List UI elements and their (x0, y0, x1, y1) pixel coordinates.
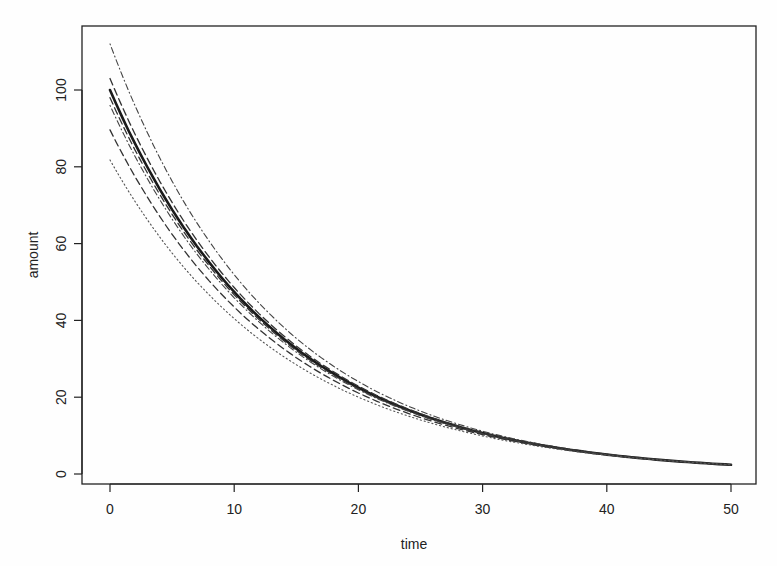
y-tick-label: 60 (53, 236, 69, 252)
x-tick-label: 50 (723, 501, 739, 517)
y-tick-label: 0 (53, 470, 69, 478)
line-chart: 01020304050 020406080100 time amount (0, 0, 777, 566)
y-axis: 020406080100 (53, 78, 82, 478)
x-tick-label: 0 (106, 501, 114, 517)
curve-lower-outer (110, 160, 731, 465)
x-tick-label: 40 (599, 501, 615, 517)
y-tick-label: 20 (53, 389, 69, 405)
x-tick-label: 20 (351, 501, 367, 517)
curves (110, 44, 731, 465)
y-tick-label: 40 (53, 312, 69, 328)
y-tick-label: 80 (53, 159, 69, 175)
y-tick-label: 100 (53, 78, 69, 102)
x-axis-label: time (401, 536, 428, 552)
curve-mid-1 (110, 98, 731, 465)
curve-upper-inner (110, 79, 731, 465)
x-tick-label: 30 (475, 501, 491, 517)
curve-mid-2 (110, 105, 731, 464)
chart-root: 01020304050 020406080100 time amount (0, 0, 777, 566)
x-axis: 01020304050 (106, 484, 739, 517)
curve-fit (110, 90, 731, 465)
x-tick-label: 10 (226, 501, 242, 517)
y-axis-label: amount (25, 232, 41, 279)
